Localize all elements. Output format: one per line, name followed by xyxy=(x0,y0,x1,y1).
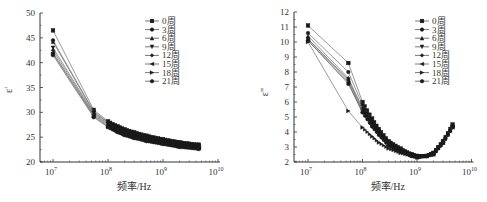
dense-point-marker xyxy=(176,145,179,148)
data-point-marker xyxy=(51,29,55,33)
left-chart-epsilon-real: 202530354045501071081091010频率/Hzε'0周3周6周… xyxy=(3,8,224,192)
dense-point-marker xyxy=(363,114,366,117)
legend-marker xyxy=(420,62,424,66)
dense-point-marker xyxy=(423,155,426,158)
dense-point-marker xyxy=(446,133,449,136)
legend-item: 21周 xyxy=(415,76,450,86)
legend-marker xyxy=(420,54,424,58)
data-point-marker xyxy=(441,141,445,145)
dense-point-marker xyxy=(413,155,416,158)
legend-item: 21周 xyxy=(145,76,180,86)
x-tick-label: 109 xyxy=(155,166,167,177)
dense-point-marker xyxy=(444,137,447,140)
dense-point-marker xyxy=(130,136,133,139)
data-point-marker xyxy=(306,39,310,43)
y-tick-label: 20 xyxy=(26,157,36,167)
legend-label: 21周 xyxy=(162,76,180,86)
legend-marker xyxy=(150,28,154,32)
y-tick-label: 10 xyxy=(280,37,290,47)
dense-point-marker xyxy=(375,131,378,134)
legend-marker xyxy=(150,54,154,58)
dense-point-marker xyxy=(159,142,162,145)
y-tick-label: 2 xyxy=(285,157,290,167)
dense-point-marker xyxy=(382,139,385,142)
data-point-marker xyxy=(370,124,374,128)
y-tick-label: 6 xyxy=(285,97,290,107)
data-point-marker xyxy=(306,24,310,28)
x-tick-label: 1010 xyxy=(209,166,224,177)
dense-point-marker xyxy=(143,139,146,142)
figure: 202530354045501071081091010频率/Hzε'0周3周6周… xyxy=(0,0,487,202)
x-axis-title: 频率/Hz xyxy=(371,180,406,192)
dense-point-marker xyxy=(380,136,383,139)
y-tick-label: 9 xyxy=(285,52,290,62)
dense-point-marker xyxy=(430,154,433,157)
y-axis-title: ε" xyxy=(259,88,270,96)
x-tick-label: 108 xyxy=(355,166,367,177)
dense-point-marker xyxy=(195,147,198,150)
y-tick-label: 3 xyxy=(285,142,290,152)
y-tick-label: 7 xyxy=(285,82,290,92)
y-tick-label: 40 xyxy=(26,58,36,68)
y-tick-label: 8 xyxy=(285,67,290,77)
legend: 0周3周6周9周12周15周18周21周 xyxy=(415,16,450,86)
y-tick-label: 50 xyxy=(26,8,36,18)
dense-point-marker xyxy=(121,133,124,136)
legend: 0周3周6周9周12周15周18周21周 xyxy=(145,16,180,86)
legend-marker xyxy=(420,79,424,83)
dense-point-marker xyxy=(114,129,117,132)
y-tick-label: 35 xyxy=(26,83,36,93)
y-tick-label: 11 xyxy=(280,22,289,32)
dense-point-marker xyxy=(373,128,376,131)
dense-point-marker xyxy=(408,154,411,157)
dense-point-marker xyxy=(434,150,437,153)
legend-marker xyxy=(420,28,424,32)
data-point-marker xyxy=(347,61,351,65)
y-tick-label: 12 xyxy=(280,7,289,17)
dense-point-marker xyxy=(439,144,442,147)
data-point-marker xyxy=(451,124,455,128)
legend-marker xyxy=(150,62,154,66)
right-chart-epsilon-imag: 234567891011121071081091010频率/Hzε"0周3周6周… xyxy=(259,7,477,192)
x-tick-label: 107 xyxy=(300,166,312,177)
x-tick-label: 108 xyxy=(100,166,112,177)
legend-marker xyxy=(150,71,154,75)
dense-point-marker xyxy=(449,129,452,132)
y-tick-label: 25 xyxy=(26,132,36,142)
y-tick-label: 30 xyxy=(26,107,36,117)
data-point-marker xyxy=(347,82,351,86)
legend-marker xyxy=(150,79,154,83)
dense-point-marker xyxy=(366,118,369,121)
legend-marker xyxy=(420,71,424,75)
data-point-marker xyxy=(361,111,365,115)
legend-marker xyxy=(420,19,424,23)
dense-point-marker xyxy=(368,121,371,124)
y-tick-label: 45 xyxy=(26,33,36,43)
data-point-marker xyxy=(347,70,351,74)
data-point-marker xyxy=(92,116,96,120)
dense-point-marker xyxy=(437,147,440,150)
legend-label: 21周 xyxy=(432,76,450,86)
y-tick-label: 4 xyxy=(285,127,290,137)
y-axis-title: ε' xyxy=(3,87,14,93)
data-point-marker xyxy=(51,53,55,57)
x-tick-label: 107 xyxy=(45,166,57,177)
y-tick-label: 5 xyxy=(285,112,290,122)
dense-point-marker xyxy=(397,149,400,152)
legend-marker xyxy=(150,19,154,23)
dense-point-marker xyxy=(385,141,388,144)
x-tick-label: 1010 xyxy=(462,166,477,177)
x-tick-label: 109 xyxy=(409,166,421,177)
data-point-marker xyxy=(377,133,381,137)
x-axis-title: 频率/Hz xyxy=(117,180,152,192)
